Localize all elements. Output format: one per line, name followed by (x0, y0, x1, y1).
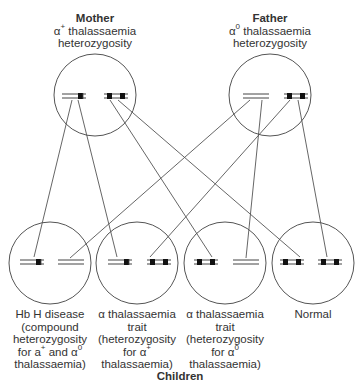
mother-circle (54, 54, 136, 136)
child-circle-normal (272, 222, 354, 304)
child-label-trait-zero: α thalassaemia trait (heterozygosity for… (179, 308, 271, 371)
mother-normal-chromosome (104, 93, 128, 99)
mother-name: Mother (45, 12, 145, 25)
mother-label: Mother α+ thalassaemia heterozygosity (45, 12, 145, 50)
child-circle-trait-plus (96, 222, 178, 304)
father-circle (229, 54, 311, 136)
children-heading: Children (130, 370, 230, 383)
child-label-trait-plus: α thalassaemia trait (heterozygosity for… (91, 308, 183, 371)
child-label-hbh: Hb H disease (compound heterozygosity fo… (0, 308, 100, 371)
mother-alpha-plus-chromosome (62, 93, 86, 99)
child-circle-hbh (9, 222, 91, 304)
father-label: Father α0 thalassaemia heterozygosity (220, 12, 320, 50)
father-alpha-zero-chromosome (243, 94, 269, 98)
father-normal-chromosome (284, 93, 308, 99)
child-label-normal: Normal (273, 308, 353, 321)
father-name: Father (220, 12, 320, 25)
child-circle-trait-zero (184, 222, 266, 304)
